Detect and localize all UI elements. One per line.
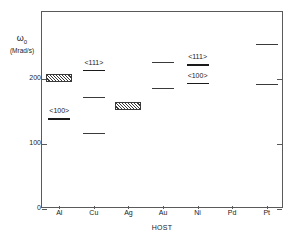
chart-figure: 111Cd ( He ) ω0 (Mrad/s) 0100200 AlCuAgA… [0,0,292,239]
x-tick-label: Cu [80,209,108,216]
data-marker-line-cu [83,133,105,134]
data-marker-label: <100> [188,72,208,79]
y-tick-label: 0 [37,204,41,211]
x-tick-ni: Ni [198,204,199,209]
y-axis-label: ω0 (Mrad/s) [2,33,42,54]
x-tick-label: Ni [184,209,212,216]
x-tick-label: Pt [253,209,281,216]
y-tick: 100 [42,144,282,145]
x-axis-title: HOST [41,224,283,231]
y-tick-label: 200 [29,74,41,81]
data-marker-line-au [152,62,174,63]
data-marker-line-pt [256,44,278,45]
data-marker-label: <100> [49,107,69,114]
data-marker-box-al [46,74,72,82]
omega-subscript: 0 [24,39,27,45]
data-marker-line-ni [187,83,209,85]
x-tick-pt: Pt [267,204,268,209]
x-tick-pd: Pd [232,204,233,209]
x-tick-label: Pd [218,209,246,216]
plot-area: 0100200 AlCuAgAuNiPdPt <100><111><111><1… [41,11,283,208]
y-tick-mark-right [277,144,282,145]
data-marker-line-cu [83,97,105,98]
x-tick-label: Au [149,209,177,216]
data-marker-line-ni [187,64,209,66]
x-tick-au: Au [163,204,164,209]
x-tick-label: Al [45,209,73,216]
x-tick-ag: Ag [128,204,129,209]
data-marker-label: <111> [188,53,207,60]
y-axis-label-symbol: ω0 [2,33,42,46]
y-axis-unit: (Mrad/s) [2,47,42,54]
y-tick-mark-left [42,144,47,145]
data-marker-line-al [48,118,70,120]
y-tick: 200 [42,79,282,80]
omega-glyph: ω [17,33,24,43]
data-marker-label: <111> [84,59,103,66]
y-tick-mark-right [277,79,282,80]
x-tick-cu: Cu [94,204,95,209]
x-tick-label: Ag [114,209,142,216]
data-marker-line-cu [83,70,105,72]
data-marker-line-au [152,88,174,89]
data-marker-line-pt [256,84,278,85]
x-tick-al: Al [59,204,60,209]
data-marker-box-ag [115,102,141,110]
y-tick-label: 100 [29,139,41,146]
